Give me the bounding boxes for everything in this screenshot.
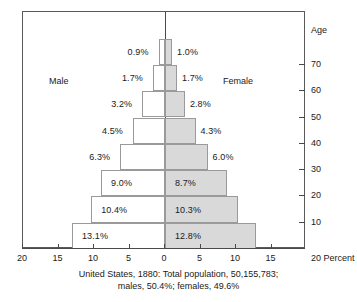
percent-tick-label: 20 [17, 253, 27, 263]
age-tick-label: 10 [311, 217, 321, 227]
female-value-label: 12.8% [175, 223, 201, 249]
male-value-label: 1.7% [122, 65, 143, 91]
age-axis-title: Age [311, 25, 327, 35]
percent-axis-unit-label: 20 Percent [311, 253, 355, 263]
pyramid-band: 10.4%10.3% [23, 196, 304, 222]
age-tick-label: 60 [311, 85, 321, 95]
caption-line-1: United States, 1880: Total population, 5… [0, 268, 357, 280]
female-bar [165, 118, 196, 144]
percent-tick [235, 244, 236, 248]
pyramid-band: 6.3%6.0% [23, 144, 304, 170]
pyramid-band: 0.9%1.0% [23, 39, 304, 65]
female-series-label: Female [223, 76, 253, 86]
female-value-label: 8.7% [175, 170, 196, 196]
percent-tick [58, 244, 59, 248]
male-series-label: Male [49, 76, 69, 86]
percent-tick-label: 15 [265, 253, 275, 263]
age-tick [299, 143, 305, 144]
percent-tick-label: 0 [161, 253, 166, 263]
chart-plot-area: 0.9%1.0%1.7%1.7%3.2%2.8%4.5%4.3%6.3%6.0%… [22, 11, 305, 248]
female-bar [165, 65, 177, 91]
percent-tick [22, 244, 23, 248]
percent-tick [129, 244, 130, 248]
female-value-label: 4.3% [201, 118, 222, 144]
age-tick [299, 90, 305, 91]
male-bar [153, 65, 165, 91]
female-bar [165, 39, 172, 65]
male-value-label: 0.9% [128, 39, 149, 65]
figure-caption: United States, 1880: Total population, 5… [0, 268, 357, 292]
male-bar [142, 91, 165, 117]
age-tick-label: 70 [311, 59, 321, 69]
male-bar [133, 118, 165, 144]
percent-tick [271, 244, 272, 248]
percent-tick-label: 10 [88, 253, 98, 263]
male-bar [120, 144, 165, 170]
pyramid-band: 3.2%2.8% [23, 91, 304, 117]
male-value-label: 10.4% [101, 196, 127, 222]
percent-tick-label: 10 [230, 253, 240, 263]
percent-tick-label: 5 [197, 253, 202, 263]
male-value-label: 4.5% [102, 118, 123, 144]
female-value-label: 6.0% [213, 144, 234, 170]
age-tick-label: 40 [311, 138, 321, 148]
pyramid-band: 9.0%8.7% [23, 170, 304, 196]
percent-tick-label: 15 [52, 253, 62, 263]
female-value-label: 1.7% [182, 65, 203, 91]
caption-line-2: males, 50.4%; females, 49.6% [0, 280, 357, 292]
percent-axis-line [22, 248, 305, 249]
male-value-label: 6.3% [89, 144, 110, 170]
age-tick [299, 64, 305, 65]
age-tick [299, 117, 305, 118]
female-value-label: 2.8% [190, 91, 211, 117]
population-pyramid-figure: 0.9%1.0%1.7%1.7%3.2%2.8%4.5%4.3%6.3%6.0%… [0, 0, 357, 302]
male-value-label: 13.1% [82, 223, 108, 249]
age-tick [299, 222, 305, 223]
female-bar [165, 144, 208, 170]
percent-tick-label: 5 [126, 253, 131, 263]
female-value-label: 10.3% [175, 196, 201, 222]
male-value-label: 9.0% [111, 170, 132, 196]
age-tick-label: 30 [311, 164, 321, 174]
age-tick-label: 20 [311, 190, 321, 200]
age-tick [299, 169, 305, 170]
female-bar [165, 91, 185, 117]
male-value-label: 3.2% [111, 91, 132, 117]
female-value-label: 1.0% [177, 39, 198, 65]
percent-tick [93, 244, 94, 248]
age-tick-label: 50 [311, 112, 321, 122]
age-tick [299, 195, 305, 196]
percent-tick [164, 244, 165, 248]
percent-tick [200, 244, 201, 248]
pyramid-band: 4.5%4.3% [23, 118, 304, 144]
